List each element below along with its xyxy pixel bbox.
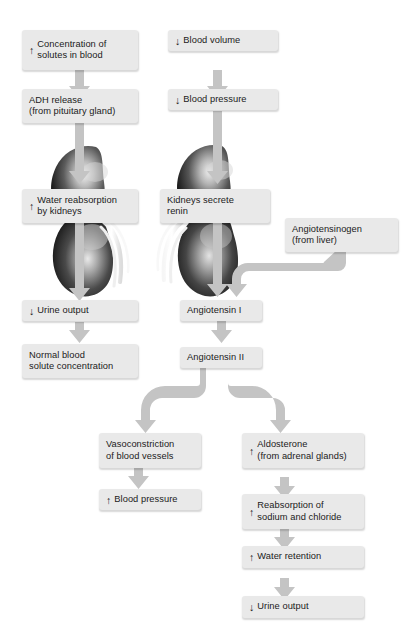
decrease-arrow-icon: ↓ xyxy=(29,306,34,316)
node-blood-volume: ↓Blood volume xyxy=(168,30,278,51)
node-label: Urine output xyxy=(257,601,308,612)
increase-arrow-icon: ↑ xyxy=(249,552,254,562)
node-water-retention: ↑Water retention xyxy=(242,546,364,568)
increase-arrow-icon: ↑ xyxy=(29,45,34,55)
node-aldosterone: ↑Aldosterone (from adrenal glands) xyxy=(242,433,364,468)
node-urine-output-decrease-2: ↓Urine output xyxy=(242,596,364,618)
node-blood-pressure-increase: ↑Blood pressure xyxy=(99,489,201,510)
node-label: Blood pressure xyxy=(114,494,177,505)
node-label: Aldosterone (from adrenal glands) xyxy=(257,439,346,462)
increase-arrow-icon: ↑ xyxy=(249,446,254,456)
increase-arrow-icon: ↑ xyxy=(29,201,34,211)
node-label: Normal blood solute concentration xyxy=(29,350,113,373)
node-label: Blood pressure xyxy=(183,94,246,105)
diagram-canvas: ↑Concentration of solutes in blood ↓Bloo… xyxy=(0,0,405,641)
node-label: Water reabsorption by kidneys xyxy=(37,195,117,218)
node-blood-pressure-decrease: ↓Blood pressure xyxy=(168,89,278,110)
node-vasoconstriction: Vasoconstriction of blood vessels xyxy=(99,433,201,468)
node-concentration-solutes: ↑Concentration of solutes in blood xyxy=(22,30,138,70)
node-label: Vasoconstriction of blood vessels xyxy=(106,439,174,462)
node-label: Water retention xyxy=(257,551,321,562)
node-label: Angiotensin II xyxy=(187,352,244,363)
node-normal-blood-solute: Normal blood solute concentration xyxy=(22,344,138,378)
node-label: Concentration of solutes in blood xyxy=(37,39,106,62)
decrease-arrow-icon: ↓ xyxy=(175,95,180,105)
node-angiotensin-i: Angiotensin I xyxy=(180,300,262,321)
node-adh-release: ADH release (from pituitary gland) xyxy=(22,89,138,123)
node-urine-output-decrease: ↓Urine output xyxy=(22,300,138,321)
increase-arrow-icon: ↑ xyxy=(106,495,111,505)
node-label: Angiotensin I xyxy=(187,305,241,316)
node-angiotensin-ii: Angiotensin II xyxy=(180,347,262,368)
node-reabsorption-sodium: ↑Reabsorption of sodium and chloride xyxy=(242,494,364,529)
node-label: Urine output xyxy=(37,305,88,316)
node-label: Blood volume xyxy=(183,35,240,46)
node-kidneys-secrete-renin: Kidneys secrete renin xyxy=(160,189,270,223)
decrease-arrow-icon: ↓ xyxy=(249,602,254,612)
increase-arrow-icon: ↑ xyxy=(249,507,254,517)
node-label: Kidneys secrete renin xyxy=(167,195,234,218)
node-water-reabsorption: ↑Water reabsorption by kidneys xyxy=(22,189,138,223)
node-label: ADH release (from pituitary gland) xyxy=(29,95,115,118)
node-angiotensinogen: Angiotensinogen (from liver) xyxy=(285,218,398,252)
decrease-arrow-icon: ↓ xyxy=(175,36,180,46)
node-label: Angiotensinogen (from liver) xyxy=(292,224,362,247)
node-label: Reabsorption of sodium and chloride xyxy=(257,500,341,523)
